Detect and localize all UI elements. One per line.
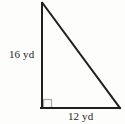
horizontal-leg-label: 12 yd [68,110,93,122]
vertical-leg-label: 16 yd [9,48,34,60]
right-triangle-figure: 16 yd 12 yd [0,0,125,124]
figure-background [0,0,125,124]
triangle-drawing [0,0,125,124]
